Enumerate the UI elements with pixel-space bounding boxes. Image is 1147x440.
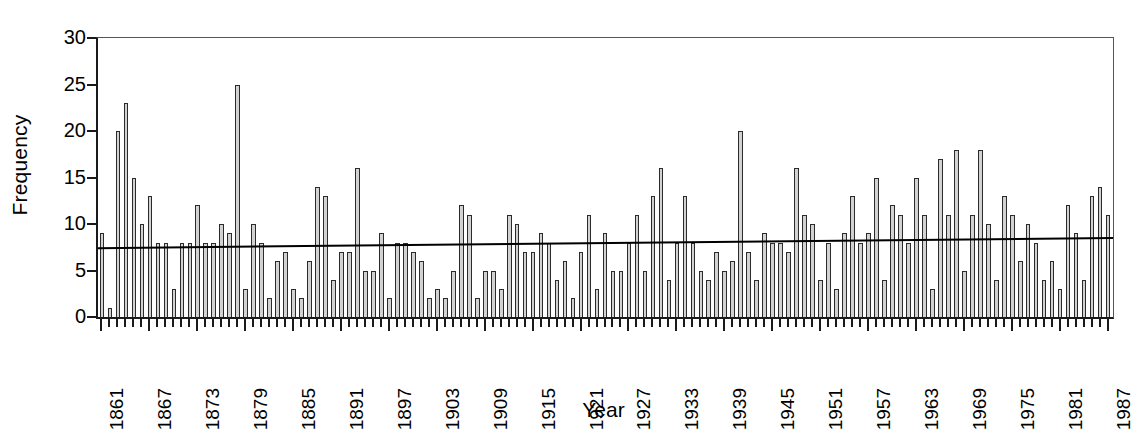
bar [347, 252, 352, 317]
bar [778, 243, 783, 317]
x-axis-tick [436, 318, 438, 331]
bar-slot [497, 38, 505, 317]
bar [451, 271, 456, 318]
x-axis-tick [627, 318, 629, 331]
bar-slot [992, 38, 1000, 317]
x-axis-tick [643, 318, 645, 327]
x-axis-tick [124, 318, 126, 327]
bar-slot [218, 38, 226, 317]
x-axis-tick [356, 318, 358, 327]
bar-slot [769, 38, 777, 317]
x-axis-tick [220, 318, 222, 327]
bar [419, 261, 424, 317]
bar-slot [1000, 38, 1008, 317]
bar-slot [785, 38, 793, 317]
bar-slot [561, 38, 569, 317]
x-axis-tick [683, 318, 685, 327]
y-axis-title-label: Frequency [8, 114, 32, 215]
bar-slot [1016, 38, 1024, 317]
y-axis-tick-label: 10 [64, 213, 86, 233]
bar [619, 271, 624, 318]
bar-slot [513, 38, 521, 317]
bar [882, 280, 887, 317]
bar [1026, 224, 1031, 317]
x-axis-tick [1003, 318, 1005, 327]
x-axis-tick [875, 318, 877, 327]
bar [730, 261, 735, 317]
bar-slot [793, 38, 801, 317]
x-axis-tick [731, 318, 733, 327]
x-axis-title: Year [96, 398, 1111, 422]
x-axis-tick [116, 318, 118, 327]
bar [1058, 289, 1063, 317]
bar-slot [545, 38, 553, 317]
bar [802, 215, 807, 317]
bar-slot [1040, 38, 1048, 317]
bar [818, 280, 823, 317]
frequency-by-year-histogram: Frequency 051015202530 18611867187318791… [0, 0, 1147, 440]
bar-slot [202, 38, 210, 317]
bar-slot [178, 38, 186, 317]
x-axis-tick [564, 318, 566, 327]
x-axis-tick [795, 318, 797, 327]
x-axis-tick [228, 318, 230, 327]
x-axis-tick [635, 318, 637, 327]
bar [195, 205, 200, 317]
bar [683, 196, 688, 317]
bar-slot [1096, 38, 1104, 317]
bar-slot [984, 38, 992, 317]
bar [1106, 215, 1111, 317]
bar [379, 233, 384, 317]
bar [275, 261, 280, 317]
x-axis-tick [380, 318, 382, 327]
bar [659, 168, 664, 317]
x-axis-tick [420, 318, 422, 327]
bar [675, 243, 680, 317]
bar-slot [409, 38, 417, 317]
x-axis-tick [588, 318, 590, 327]
bar-slot [258, 38, 266, 317]
bar [291, 289, 296, 317]
bar-slot [1088, 38, 1096, 317]
x-axis-tick [835, 318, 837, 327]
bar [483, 271, 488, 318]
bar [1002, 196, 1007, 317]
bar [1034, 243, 1039, 317]
bar-slot [369, 38, 377, 317]
bar-slot [553, 38, 561, 317]
x-axis-tick [955, 318, 957, 327]
bars-container [98, 38, 1113, 317]
y-axis-tick-label: 30 [64, 27, 86, 47]
bar-slot [1024, 38, 1032, 317]
bar-slot [106, 38, 114, 317]
x-axis-tick [204, 318, 206, 327]
bar-slot [1008, 38, 1016, 317]
x-axis-tick [1019, 318, 1021, 327]
x-axis-tick [763, 318, 765, 327]
x-axis-tick-label: 1987 [1114, 388, 1133, 430]
bar [794, 168, 799, 317]
x-axis-title-label: Year [582, 398, 624, 421]
x-axis-tick [468, 318, 470, 327]
x-axis-tick [484, 318, 486, 331]
bar-slot [425, 38, 433, 317]
bar-slot [593, 38, 601, 317]
x-axis-tick [771, 318, 773, 331]
bar-slot [833, 38, 841, 317]
bar [203, 243, 208, 317]
x-axis-tick [580, 318, 582, 331]
bar-slot [489, 38, 497, 317]
bar-slot [609, 38, 617, 317]
y-axis-title: Frequency [0, 0, 40, 330]
bar-slot [521, 38, 529, 317]
bar-slot [154, 38, 162, 317]
y-axis-tick-label: 5 [75, 260, 86, 280]
bar-slot [960, 38, 968, 317]
bar [547, 243, 552, 317]
x-axis-tick [244, 318, 246, 331]
bar-slot [1056, 38, 1064, 317]
x-axis-tick [883, 318, 885, 327]
bar [826, 243, 831, 317]
bar-slot [569, 38, 577, 317]
bar [946, 215, 951, 317]
